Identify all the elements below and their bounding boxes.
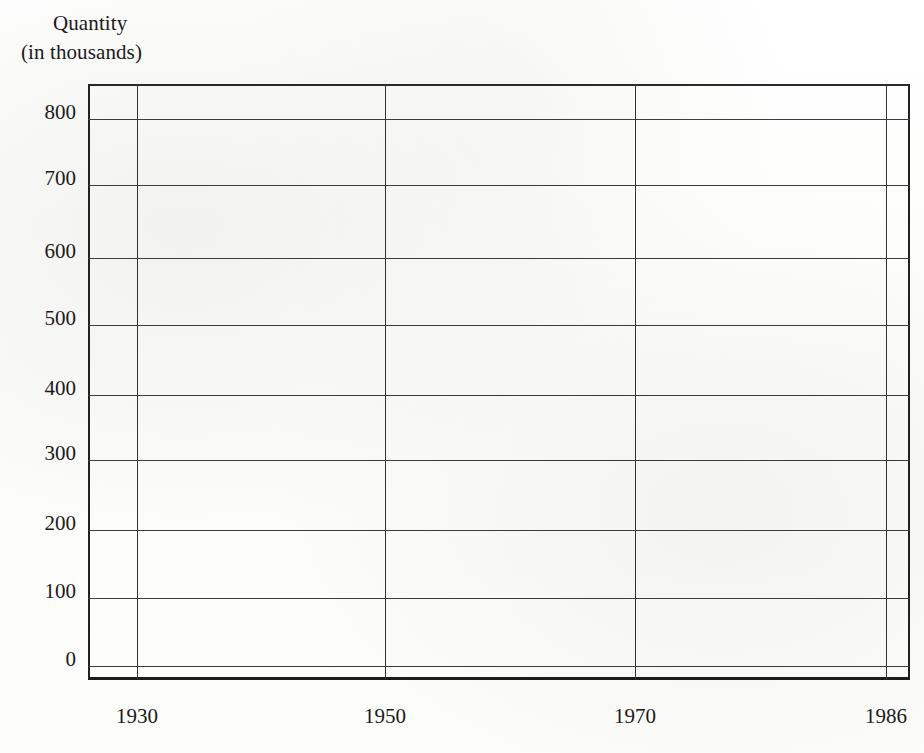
horizontal-gridline (88, 598, 910, 599)
y-axis-tick-label: 0 (66, 649, 77, 670)
horizontal-gridline (88, 185, 910, 186)
chart-plot-area (88, 84, 910, 680)
horizontal-gridline (88, 666, 910, 667)
horizontal-gridline (88, 460, 910, 461)
vertical-gridline (635, 84, 636, 680)
y-axis-tick-label: 600 (45, 241, 77, 262)
y-axis-tick-label: 200 (45, 513, 77, 534)
horizontal-gridline (88, 530, 910, 531)
horizontal-gridline (88, 325, 910, 326)
x-axis-tick-label: 1930 (116, 706, 158, 727)
x-axis-tick-label: 1986 (865, 706, 907, 727)
vertical-gridline (886, 84, 887, 680)
horizontal-gridline (88, 395, 910, 396)
x-axis-tick-label: 1950 (364, 706, 406, 727)
y-axis-tick-label: 800 (45, 102, 77, 123)
chart-frame (88, 84, 910, 680)
y-axis-tick-label: 300 (45, 443, 77, 464)
vertical-gridline (137, 84, 138, 680)
y-axis-tick-labels: 8007006005004003002001000 (0, 84, 76, 680)
horizontal-gridline (88, 119, 910, 120)
y-axis-tick-label: 700 (45, 168, 77, 189)
vertical-gridline (385, 84, 386, 680)
x-axis-tick-label: 1970 (614, 706, 656, 727)
horizontal-gridline (88, 258, 910, 259)
y-axis-tick-label: 400 (45, 378, 77, 399)
y-axis-title-line1: Quantity (53, 8, 127, 38)
y-axis-tick-label: 500 (45, 308, 77, 329)
y-axis-title-line2: (in thousands) (21, 37, 142, 67)
y-axis-tick-label: 100 (45, 581, 77, 602)
